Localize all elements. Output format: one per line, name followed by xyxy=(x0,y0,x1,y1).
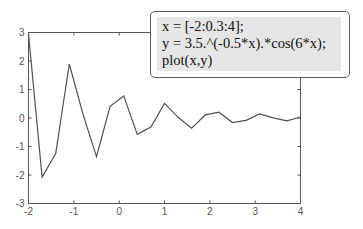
x-tick-label: 4 xyxy=(298,206,304,217)
code-annotation-box: x = [-2:0.3:4]; y = 3.5.^(-0.5*x).*cos(6… xyxy=(150,11,350,78)
x-tick-label: 1 xyxy=(162,206,168,217)
x-tick-label: 2 xyxy=(207,206,213,217)
x-tick-label: 0 xyxy=(116,206,122,217)
code-line-1: x = [-2:0.3:4]; xyxy=(162,18,244,34)
y-tick-label: 3 xyxy=(19,27,25,38)
y-tick-label: -2 xyxy=(16,170,25,181)
y-tick-label: -3 xyxy=(16,198,25,209)
code-annotation-background: x = [-2:0.3:4]; y = 3.5.^(-0.5*x).*cos(6… xyxy=(157,17,341,71)
x-tick-label: -2 xyxy=(24,206,33,217)
y-tick-label: 1 xyxy=(19,84,25,95)
code-line-2: y = 3.5.^(-0.5*x).*cos(6*x); xyxy=(162,35,326,51)
y-tick-label: 0 xyxy=(19,113,25,124)
x-tick-label: 3 xyxy=(252,206,258,217)
code-line-3: plot(x,y) xyxy=(162,52,212,68)
y-tick-label: 2 xyxy=(19,56,25,67)
x-tick-label: -1 xyxy=(69,206,78,217)
y-tick-label: -1 xyxy=(16,141,25,152)
